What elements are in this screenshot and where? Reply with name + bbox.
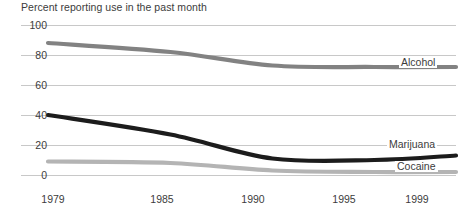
plot-area bbox=[0, 0, 461, 218]
series-label-alcohol: Alcohol bbox=[399, 57, 437, 68]
y-tick-80: 80 bbox=[21, 50, 47, 61]
x-tick-1985: 1985 bbox=[137, 194, 187, 205]
x-tick-1990: 1990 bbox=[228, 194, 278, 205]
series-label-cocaine: Cocaine bbox=[395, 161, 438, 172]
y-tick-100: 100 bbox=[21, 20, 47, 31]
line-chart: Percent reporting use in the past month … bbox=[0, 0, 461, 218]
x-tick-1995: 1995 bbox=[319, 194, 369, 205]
x-tick-1979: 1979 bbox=[28, 194, 78, 205]
y-tick-0: 0 bbox=[21, 170, 47, 181]
x-tick-1999: 1999 bbox=[392, 194, 442, 205]
series-lines bbox=[48, 43, 456, 172]
series-label-marijuana: Marijuana bbox=[387, 139, 437, 150]
y-tick-60: 60 bbox=[21, 80, 47, 91]
y-tick-40: 40 bbox=[21, 110, 47, 121]
y-tick-20: 20 bbox=[21, 140, 47, 151]
